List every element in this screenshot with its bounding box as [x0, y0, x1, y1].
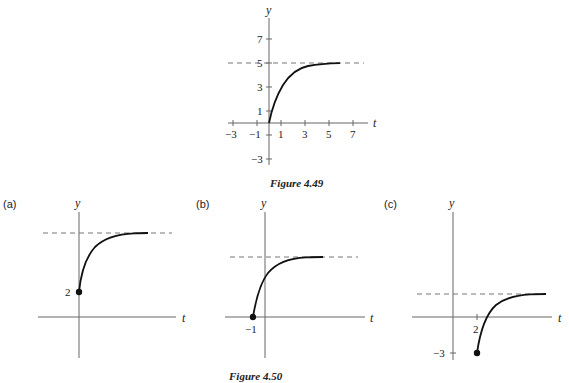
solution-curve — [477, 294, 546, 353]
initial-point — [474, 350, 480, 356]
y-tick-label: 3 — [257, 81, 263, 93]
figure-4-50b: (b) y t −1 — [196, 196, 374, 358]
solution-curve — [79, 233, 148, 292]
initial-point — [250, 314, 256, 320]
t-axis-label: t — [370, 311, 374, 325]
y-axis-label: y — [260, 196, 267, 210]
x-tick-label: 5 — [326, 128, 332, 140]
figure-caption: Figure 4.49 — [269, 177, 324, 189]
initial-point — [76, 289, 82, 295]
y-axis-label: y — [74, 196, 81, 210]
t-axis-label: t — [373, 116, 377, 130]
x-tick-label: −1 — [249, 128, 261, 140]
x-tick-label: −3 — [225, 128, 237, 140]
y-axis-label: y — [265, 3, 272, 17]
figure-caption: Figure 4.50 — [228, 370, 283, 382]
y-tick-label: 7 — [257, 33, 263, 45]
t-point-label: 2 — [473, 323, 479, 335]
figure-4-50a: (a) y t 2 — [3, 196, 186, 358]
x-tick-label: 3 — [302, 128, 308, 140]
y-axis-label: y — [448, 196, 455, 210]
point-label: −1 — [245, 323, 257, 335]
figure-canvas: y t −3 −1 1 3 5 7 7 5 3 1 −3 Figure 4.49… — [0, 0, 569, 383]
y-tick-label: 1 — [257, 105, 263, 117]
figure-4-50c: (c) y t 2 −3 — [384, 196, 562, 360]
y-tick-label: −3 — [251, 153, 263, 165]
x-tick-label: 1 — [278, 128, 284, 140]
solution-curve — [253, 257, 323, 317]
panel-label: (a) — [3, 198, 16, 210]
t-axis-label: t — [558, 311, 562, 325]
panel-label: (c) — [384, 198, 397, 210]
solution-curve — [269, 63, 340, 123]
figure-4-49: y t −3 −1 1 3 5 7 7 5 3 1 −3 Figure 4.49 — [225, 3, 377, 189]
y-point-label: −3 — [433, 347, 445, 359]
y-tick-label: 5 — [257, 57, 263, 69]
x-tick-label: 7 — [350, 128, 356, 140]
t-axis-label: t — [182, 311, 186, 325]
point-label: 2 — [65, 286, 71, 298]
panel-label: (b) — [196, 198, 209, 210]
